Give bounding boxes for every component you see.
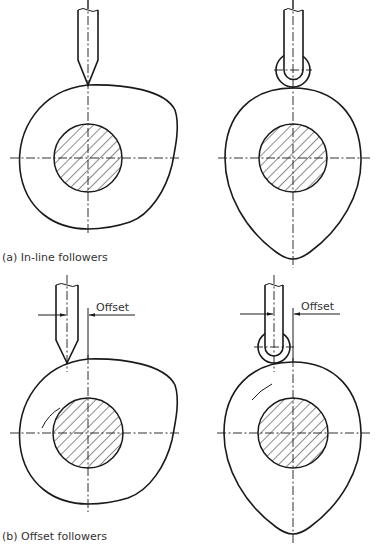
panel-b-knife-edge-offset: Offset [10,275,180,512]
caption-b: (b) Offset followers [2,530,107,543]
panel-a-knife-edge-inline [10,0,180,235]
offset-label: Offset [96,301,130,314]
panel-b-roller-offset: Offset [217,275,370,545]
offset-label: Offset [301,300,335,313]
caption-a: (a) In-line followers [2,251,108,264]
follower-stem [284,10,303,80]
cam-follower-diagram: (a) In-line followers Offset Offset [0,0,376,549]
panel-a-roller-inline [218,0,370,268]
